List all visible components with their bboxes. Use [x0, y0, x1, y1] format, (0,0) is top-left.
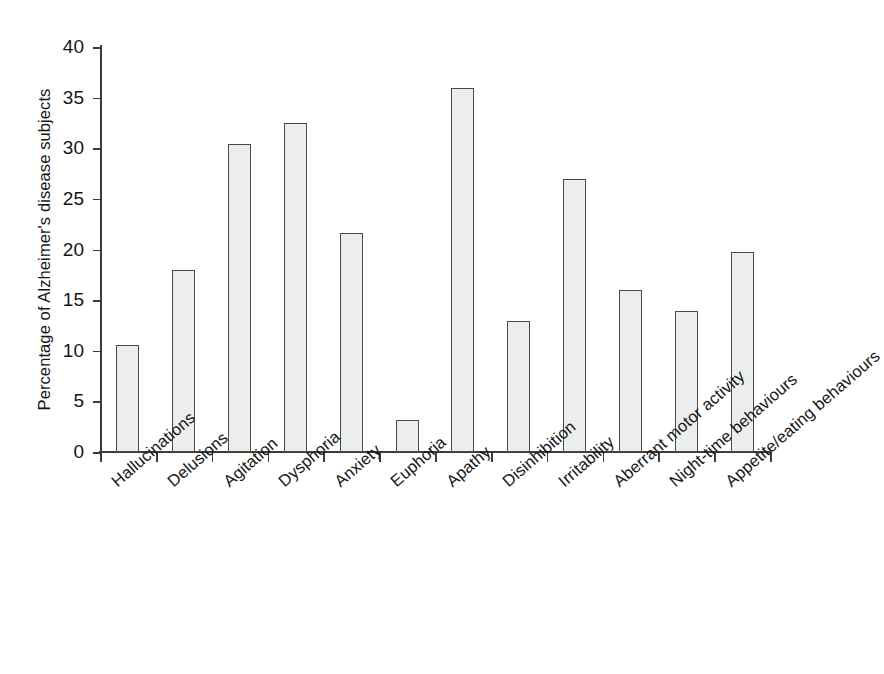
y-tick: 35 [93, 98, 100, 100]
x-tick [770, 452, 772, 462]
y-tick-label: 15 [63, 289, 84, 311]
y-tick: 0 [93, 452, 100, 454]
y-tick: 5 [93, 401, 100, 403]
x-tick [323, 452, 325, 462]
x-tick [100, 452, 102, 462]
bar [228, 144, 251, 452]
y-tick: 10 [93, 351, 100, 353]
x-tick [156, 452, 158, 462]
x-tick [379, 452, 381, 462]
x-tick [435, 452, 437, 462]
bar [284, 123, 307, 452]
y-tick-label: 20 [63, 238, 84, 260]
bar [507, 321, 530, 452]
bar [619, 290, 642, 452]
y-axis-title: Percentage of Alzheimer's disease subjec… [35, 30, 54, 470]
y-tick-label: 25 [63, 188, 84, 210]
x-tick [603, 452, 605, 462]
x-tick [212, 452, 214, 462]
y-tick-label: 30 [63, 137, 84, 159]
y-tick-label: 0 [73, 441, 84, 463]
x-tick [547, 452, 549, 462]
x-tick [658, 452, 660, 462]
bar [172, 270, 195, 452]
bar [451, 88, 474, 453]
bar [563, 179, 586, 452]
y-tick: 40 [93, 47, 100, 49]
x-tick [714, 452, 716, 462]
bar [116, 345, 139, 452]
plot-area: 0510152025303540 [100, 47, 770, 452]
y-tick-label: 40 [63, 36, 84, 58]
y-tick: 25 [93, 199, 100, 201]
y-tick: 20 [93, 250, 100, 252]
y-tick-label: 10 [63, 340, 84, 362]
y-tick: 15 [93, 300, 100, 302]
x-tick [268, 452, 270, 462]
bar [396, 420, 419, 452]
y-tick-label: 35 [63, 86, 84, 108]
bar [731, 252, 754, 452]
y-tick-label: 5 [73, 390, 84, 412]
y-tick: 30 [93, 148, 100, 150]
x-tick [491, 452, 493, 462]
bar [340, 233, 363, 452]
bar [675, 311, 698, 452]
